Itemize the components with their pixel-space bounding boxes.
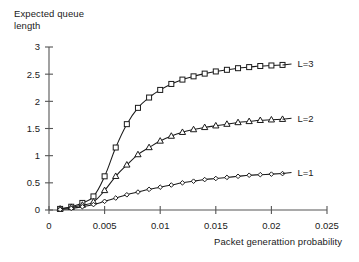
diamond-marker: [147, 187, 152, 192]
diamond-marker: [191, 179, 196, 184]
x-tick-label: 0.015: [204, 220, 228, 231]
diamond-marker: [169, 183, 174, 188]
series-label-l3: L=3: [298, 58, 314, 69]
x-tick-label: 0.01: [151, 220, 170, 231]
square-marker: [113, 145, 118, 150]
diamond-marker: [236, 174, 241, 179]
y-tick-label: 2: [35, 96, 40, 107]
diamond-marker: [214, 176, 219, 181]
square-marker: [224, 67, 229, 72]
series-labels: L=3L=2L=1: [298, 58, 314, 178]
square-marker: [213, 69, 218, 74]
y-tick-label: 2.5: [27, 69, 40, 80]
y-tick-label: 1.5: [27, 123, 40, 134]
series-label-l1: L=1: [298, 167, 314, 178]
square-marker: [124, 122, 129, 127]
square-marker: [102, 174, 107, 179]
x-tick-label: 0.005: [93, 220, 117, 231]
chart-container: Expected queue length Packet generattion…: [0, 0, 359, 262]
series-label-l2: L=2: [298, 113, 314, 124]
square-marker: [180, 77, 185, 82]
square-marker: [202, 71, 207, 76]
square-marker: [247, 65, 252, 70]
diamond-marker: [202, 177, 207, 182]
diamond-marker: [158, 185, 163, 190]
y-tick-label: 0: [35, 204, 40, 215]
diamond-marker: [225, 175, 230, 180]
x-tick-label: 0.02: [262, 220, 281, 231]
series-l3: [58, 62, 292, 211]
triangle-marker: [135, 151, 141, 157]
diamond-marker: [102, 199, 107, 204]
square-marker: [158, 87, 163, 92]
x-tick-label: 0: [46, 220, 51, 231]
diamond-marker: [125, 192, 130, 197]
y-tick-label: 1: [35, 150, 40, 161]
plot-area: 00.0050.010.0150.020.02500.511.522.53 L=…: [0, 0, 359, 262]
diamond-marker: [136, 190, 141, 195]
square-marker: [169, 81, 174, 86]
triangle-marker: [146, 144, 152, 150]
tick-labels: 00.0050.010.0150.020.02500.511.522.53: [27, 41, 339, 231]
diamond-marker: [113, 196, 118, 201]
x-tick-label: 0.025: [315, 220, 339, 231]
square-marker: [269, 63, 274, 68]
y-tick-label: 0.5: [27, 177, 40, 188]
square-marker: [258, 64, 263, 69]
square-marker: [236, 66, 241, 71]
axes: [45, 47, 327, 214]
series-l1: [58, 171, 292, 211]
square-marker: [147, 95, 152, 100]
square-marker: [191, 74, 196, 79]
diamond-marker: [247, 173, 252, 178]
data-series: [57, 62, 292, 211]
diamond-marker: [180, 181, 185, 186]
diamond-marker: [269, 172, 274, 177]
y-tick-label: 3: [35, 41, 40, 52]
square-marker: [135, 105, 140, 110]
diamond-marker: [258, 172, 263, 177]
